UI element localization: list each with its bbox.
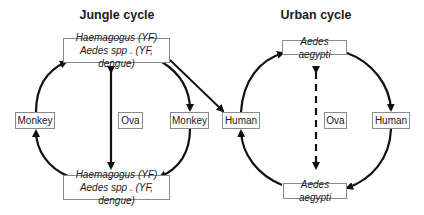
jungle-host-left: Monkey — [15, 112, 55, 129]
arrow-jungle-to-human — [170, 60, 223, 111]
arrow-monkey-to-top-vector — [36, 62, 66, 112]
arrow-human-to-top-vector — [241, 53, 283, 112]
jungle-top-vector-box: Haemagogus (YF) Aedes spp . (YF, dengue) — [63, 38, 170, 63]
vector-line-1: Haemagogus (YF) — [64, 31, 169, 44]
arrow-bottom-vector-to-human — [241, 131, 282, 185]
jungle-ova-box: Ova — [118, 112, 143, 129]
urban-bottom-vector-box: Aedes aegypti — [283, 183, 347, 199]
urban-cycle-title: Urban cycle — [268, 8, 364, 22]
vector-line-1: Haemagogus (YF) — [64, 168, 169, 181]
vector-line-2: Aedes spp . (YF, dengue) — [64, 181, 169, 207]
vector-line-2: Aedes spp . (YF, dengue) — [64, 44, 169, 70]
urban-ova-box: Ova — [324, 112, 347, 129]
arrow-human-to-bottom-vector — [347, 129, 391, 188]
urban-host-left: Human — [222, 112, 260, 129]
jungle-host-right: Monkey — [170, 112, 209, 129]
jungle-cycle-title: Jungle cycle — [63, 8, 171, 22]
urban-host-right: Human — [372, 112, 410, 129]
urban-top-vector-box: Aedes aegypti — [282, 40, 347, 55]
arrow-top-vector-to-human — [347, 53, 391, 110]
jungle-bottom-vector-box: Haemagogus (YF) Aedes spp . (YF, dengue) — [63, 175, 170, 200]
